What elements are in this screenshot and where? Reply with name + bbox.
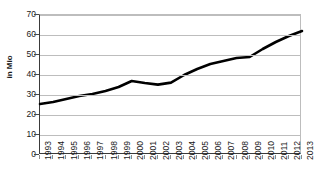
y-axis-tick-label: 20: [16, 110, 36, 118]
x-axis-tick-mark: [157, 155, 158, 159]
x-axis-tick-mark: [52, 155, 53, 159]
gridline: [40, 135, 300, 136]
x-axis-tick-mark: [39, 155, 40, 159]
y-axis-tick-label: 40: [16, 70, 36, 78]
y-axis-tick-mark: [34, 34, 39, 35]
plot-area: [39, 14, 301, 154]
x-axis-tick-mark: [301, 155, 302, 159]
x-axis-tick-mark: [196, 155, 197, 159]
x-axis-tick-mark: [78, 155, 79, 159]
x-axis-tick-mark: [288, 155, 289, 159]
y-axis-tick-mark: [34, 94, 39, 95]
x-axis-tick-mark: [236, 155, 237, 159]
x-axis-tick-mark: [222, 155, 223, 159]
y-axis-tick-labels: 706050403020100: [14, 0, 36, 189]
x-axis-tick-mark: [275, 155, 276, 159]
gridline: [40, 35, 300, 36]
y-axis-tick-mark: [34, 54, 39, 55]
y-axis-tick-label: 50: [16, 50, 36, 58]
line-chart: in Mio 706050403020100 19931994199519961…: [0, 0, 316, 189]
x-axis-tick-mark: [118, 155, 119, 159]
x-axis-tick-mark: [131, 155, 132, 159]
gridline: [40, 15, 300, 16]
y-axis-tick-label: 30: [16, 90, 36, 98]
y-axis-tick-label: 60: [16, 30, 36, 38]
y-axis-tick-mark: [34, 14, 39, 15]
x-axis-tick-mark: [105, 155, 106, 159]
x-axis-tick-label: 2013: [305, 150, 316, 160]
gridline: [40, 95, 300, 96]
x-axis-tick-mark: [249, 155, 250, 159]
x-axis-tick-mark: [209, 155, 210, 159]
gridline: [40, 115, 300, 116]
y-axis-tick-label: 10: [16, 130, 36, 138]
x-axis-tick-mark: [65, 155, 66, 159]
x-axis-tick-mark: [91, 155, 92, 159]
y-axis-tick-mark: [34, 134, 39, 135]
x-axis-tick-mark: [183, 155, 184, 159]
gridline: [40, 55, 300, 56]
x-axis-tick-mark: [170, 155, 171, 159]
y-axis-tick-mark: [34, 74, 39, 75]
gridline: [40, 75, 300, 76]
y-axis-tick-label: 70: [16, 10, 36, 18]
x-axis-tick-mark: [144, 155, 145, 159]
x-axis-tick-mark: [262, 155, 263, 159]
y-axis-tick-mark: [34, 114, 39, 115]
y-axis-tick-label: 0: [16, 150, 36, 158]
